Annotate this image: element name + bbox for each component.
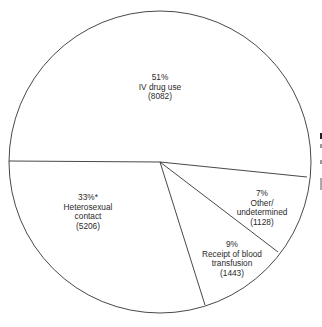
- slice-label-blood-transfusion: 9% Receipt of blood transfusion (1443): [202, 240, 262, 278]
- slice-count: (5206): [64, 222, 113, 232]
- slice-label-heterosexual: 33%* Heterosexual contact (5206): [64, 193, 113, 231]
- slice-count: (8082): [139, 92, 181, 102]
- slice-label-iv-drug-use: 51% IV drug use (8082): [139, 73, 181, 102]
- slice-label-other: 7% Other/ undetermined (1128): [237, 189, 288, 227]
- slice-count: (1128): [237, 218, 288, 228]
- slice-count: (1443): [202, 269, 262, 279]
- pie-chart: [0, 0, 322, 327]
